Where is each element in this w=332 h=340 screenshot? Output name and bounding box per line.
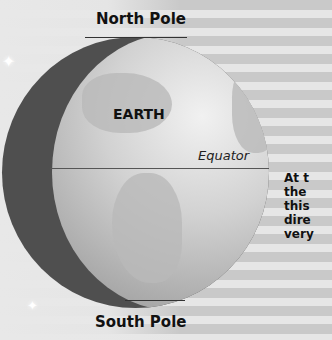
side-text: At t the this dire very [284, 171, 314, 241]
side-text-line: this [284, 199, 310, 213]
africa-edge-shape [232, 63, 269, 153]
side-text-line: dire [284, 213, 311, 227]
star-icon: ✦ [27, 298, 38, 313]
side-text-line: the [284, 185, 311, 199]
side-text-line: At t [284, 171, 309, 185]
star-icon: ✦ [2, 52, 15, 71]
north-america-shape [82, 73, 172, 133]
south-america-shape [112, 173, 182, 283]
equator-line [50, 168, 269, 169]
side-text-line: very [284, 227, 314, 241]
globe-lit-side [52, 37, 269, 308]
north-pole-label: North Pole [96, 10, 186, 28]
south-pole-line [125, 300, 185, 301]
earth-title: EARTH [113, 106, 165, 122]
south-pole-label: South Pole [95, 313, 186, 331]
equator-label: Equator [198, 148, 249, 163]
north-pole-line [85, 37, 187, 38]
earth-globe [2, 37, 269, 308]
